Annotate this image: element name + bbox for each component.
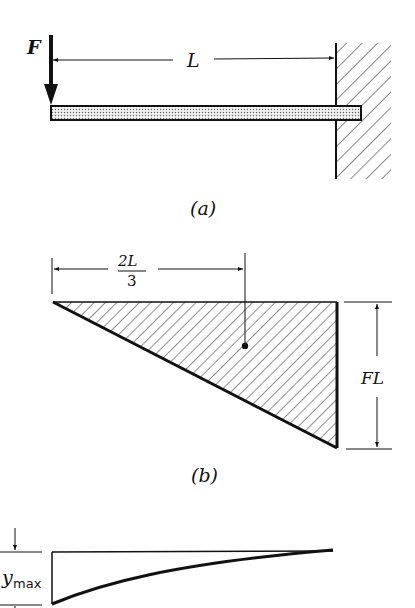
caption-a: (a)	[190, 197, 216, 219]
panel-b-moment-diagram: 2L 3 FL (b)	[52, 252, 392, 486]
beam	[51, 106, 361, 120]
centroid-point	[242, 343, 248, 349]
panel-c-deflection-diagram: y max	[0, 528, 333, 608]
centroid-label-denominator: 3	[127, 272, 137, 290]
force-label: F	[26, 36, 42, 58]
cantilever-figure: F L (a) 2L 3 FL (b)	[0, 0, 415, 608]
deflection-label: y	[1, 566, 13, 588]
deflection-subscript: max	[13, 576, 42, 591]
panel-a-cantilever-beam: F L (a)	[26, 35, 415, 219]
force-arrow-icon	[44, 35, 58, 105]
length-label: L	[186, 49, 200, 71]
deflection-curve	[52, 550, 333, 604]
caption-b: (b)	[191, 464, 218, 486]
centroid-label-numerator: 2L	[117, 252, 138, 270]
height-label: FL	[360, 368, 384, 388]
